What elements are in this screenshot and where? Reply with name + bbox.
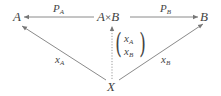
label-pB-base: P	[160, 2, 167, 14]
node-B: B	[200, 10, 208, 23]
label-xA-sub: A	[60, 59, 64, 67]
label-xB-sub: B	[166, 59, 170, 67]
node-A: A	[13, 10, 21, 23]
label-pA-base: P	[53, 2, 60, 14]
node-AxB-right: B	[111, 9, 119, 24]
node-X: X	[107, 80, 115, 93]
label-pA-sub: A	[60, 8, 64, 16]
label-xB: xB	[161, 54, 170, 67]
node-X-label: X	[107, 79, 115, 94]
arrow-xA	[22, 26, 106, 80]
pair-row-2-sub: B	[129, 51, 133, 59]
label-pA: PA	[53, 3, 64, 16]
label-xA: xA	[55, 54, 64, 67]
node-A-label: A	[13, 9, 21, 24]
node-AxB: A×B	[97, 10, 119, 23]
node-B-label: B	[200, 9, 208, 24]
pair-row-1-sub: A	[129, 38, 133, 46]
label-pB: PB	[160, 3, 171, 16]
label-pB-sub: B	[167, 8, 171, 16]
node-AxB-left: A	[97, 9, 105, 24]
right-paren: )	[139, 30, 146, 58]
pair-row-2: xB	[124, 46, 133, 59]
left-paren: (	[115, 30, 122, 58]
